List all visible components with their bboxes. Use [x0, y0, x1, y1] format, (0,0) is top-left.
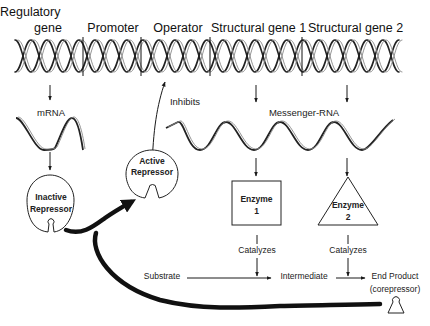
- mrna-wave: [16, 117, 85, 150]
- label-intermediate: Intermediate: [275, 272, 333, 281]
- label-structural-gene-2: Structural gene 2: [308, 22, 402, 36]
- corepressor-icon: [388, 297, 404, 313]
- label-mrna: mRNA: [34, 108, 68, 118]
- label-messenger-rna: Messenger-RNA: [264, 108, 344, 118]
- label-substrate: Substrate: [140, 272, 184, 281]
- label-structural-gene-1: Structural gene 1: [211, 22, 305, 36]
- label-enzyme1-2: 1: [232, 207, 281, 216]
- label-inhibits: Inhibits: [165, 97, 205, 107]
- label-corepressor: (corepressor): [364, 285, 426, 294]
- label-inactive-repressor-1: Inactive: [28, 193, 74, 202]
- label-catalyzes1: Catalyzes: [232, 246, 282, 255]
- label-enzyme1-1: Enzyme: [232, 195, 281, 204]
- messenger-rna-wave: [166, 119, 395, 150]
- label-promoter: Promoter: [87, 22, 139, 36]
- label-active-repressor-2: Repressor: [127, 168, 177, 177]
- label-regulatory-gene-line1: Regulatory: [0, 6, 58, 20]
- dna-helix: [15, 40, 402, 72]
- label-enzyme2-1: Enzyme: [325, 201, 371, 210]
- label-active-repressor-1: Active: [129, 157, 175, 166]
- label-end-product: End Product: [366, 272, 424, 281]
- label-enzyme2-2: 2: [325, 213, 371, 222]
- label-catalyzes2: Catalyzes: [323, 246, 373, 255]
- label-inactive-repressor-2: Repressor: [26, 205, 76, 214]
- label-operator: Operator: [152, 22, 204, 36]
- label-regulatory-gene-line2: gene: [0, 22, 96, 36]
